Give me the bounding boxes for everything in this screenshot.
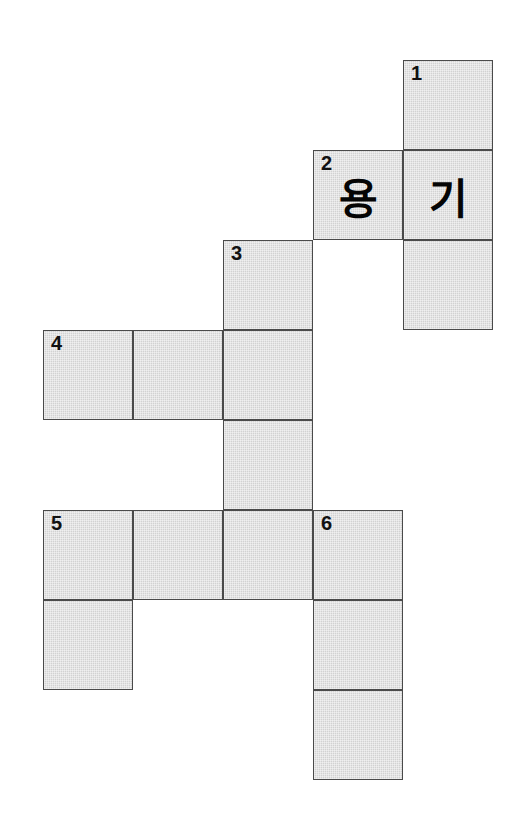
crossword-cell-3[interactable]: 3 <box>223 240 313 330</box>
crossword-cell-5[interactable]: 5 <box>43 510 133 600</box>
cell-letter: 기 <box>404 151 492 239</box>
crossword-cell[interactable] <box>223 510 313 600</box>
clue-number: 3 <box>231 243 242 264</box>
crossword-cell-1[interactable]: 1 <box>403 60 493 150</box>
crossword-cell[interactable] <box>133 510 223 600</box>
crossword-cell[interactable] <box>313 600 403 690</box>
crossword-cell-2[interactable]: 2용 <box>313 150 403 240</box>
cell-letter: 용 <box>314 151 402 239</box>
crossword-cell[interactable] <box>223 420 313 510</box>
crossword-cell[interactable] <box>313 690 403 780</box>
crossword-cell-6[interactable]: 6 <box>313 510 403 600</box>
clue-number: 6 <box>321 513 332 534</box>
crossword-cell[interactable] <box>43 600 133 690</box>
crossword-cell[interactable] <box>403 240 493 330</box>
crossword-cell[interactable]: 기 <box>403 150 493 240</box>
clue-number: 5 <box>51 513 62 534</box>
clue-number: 4 <box>51 333 62 354</box>
crossword-grid: 12용기3456 <box>0 0 516 835</box>
crossword-cell[interactable] <box>133 330 223 420</box>
crossword-cell[interactable] <box>223 330 313 420</box>
clue-number: 1 <box>411 63 422 84</box>
crossword-cell-4[interactable]: 4 <box>43 330 133 420</box>
